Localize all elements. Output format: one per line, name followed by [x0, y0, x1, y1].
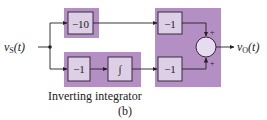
caption-inverting-integrator: Inverting integrator [48, 89, 142, 103]
inverter-label-top-right: −1 [164, 18, 176, 30]
gain-label: −10 [72, 18, 90, 30]
subfigure-label: (b) [118, 104, 132, 118]
output-signal-label: vO(t) [237, 40, 259, 55]
summing-junction [196, 37, 216, 57]
inverter-label-1: −1 [73, 63, 85, 75]
inverter-label-bottom-right: −1 [164, 63, 176, 75]
block-diagram: −10 −1 ∫ −1 −1 + + vS(t) vO(t) Inverting… [0, 0, 267, 120]
plus-sign-top: + [210, 28, 215, 37]
input-signal-label: vS(t) [4, 40, 25, 55]
plus-sign-bottom: + [210, 59, 215, 68]
